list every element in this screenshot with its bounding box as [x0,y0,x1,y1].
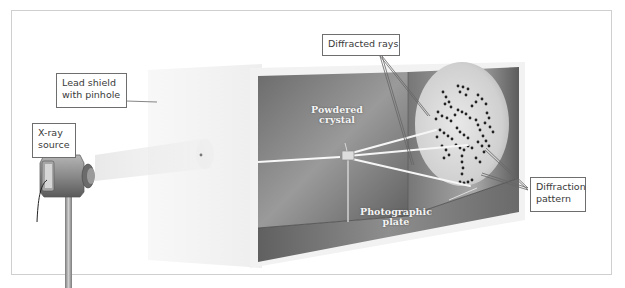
callout-xray-source: X-ray source [32,123,76,158]
callout-diffracted-rays-text: Diffracted rays [328,38,398,49]
callout-xray-source-line1: X-ray [38,127,70,139]
callout-lead-shield: Lead shield with pinhole [56,73,127,108]
diffraction-diagram [0,0,625,288]
callout-diffraction-pattern: Diffraction pattern [530,177,586,212]
callout-diffracted-rays: Diffracted rays [322,34,400,56]
label-photographic-plate: Photographic plate [348,207,444,227]
label-powdered-crystal: Powdered crystal [302,105,372,125]
label-photographic-plate-line2: plate [348,217,444,227]
stand-pole [65,196,72,288]
callout-lead-shield-line2: with pinhole [62,89,121,101]
callout-xray-source-line2: source [38,139,70,151]
callout-diffraction-pattern-line1: Diffraction [536,181,580,193]
callout-diffraction-pattern-line2: pattern [536,193,580,205]
label-powdered-crystal-line2: crystal [302,115,372,125]
callout-lead-shield-line1: Lead shield [62,77,121,89]
